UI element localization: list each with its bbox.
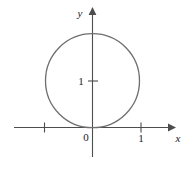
x-axis-label: x <box>175 132 181 144</box>
x-tick-label-one: 1 <box>138 132 144 144</box>
coordinate-plot: y x 0 1 1 <box>0 0 188 170</box>
figure-canvas: y x 0 1 1 <box>0 0 188 170</box>
y-tick-label-one: 1 <box>78 75 84 87</box>
origin-label: 0 <box>83 131 89 143</box>
x-axis-arrowhead <box>168 124 176 132</box>
y-axis-arrowhead <box>89 7 97 15</box>
y-axis-label: y <box>77 7 83 19</box>
